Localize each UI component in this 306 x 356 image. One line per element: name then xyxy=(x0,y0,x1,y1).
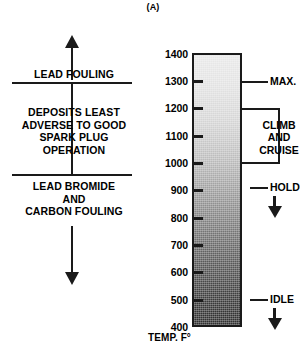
leader-line-max xyxy=(242,81,268,83)
callout-max: MAX. xyxy=(270,75,296,87)
temperature-scale-bar xyxy=(192,53,242,327)
scale-label-1300: 1300 xyxy=(146,75,188,87)
scale-label-1100: 1100 xyxy=(146,130,188,142)
scale-label-900: 900 xyxy=(146,184,188,196)
leader-line-idle xyxy=(250,299,268,301)
tick-1200 xyxy=(192,107,203,110)
figure-label: (A) xyxy=(0,2,306,12)
scale-label-1000: 1000 xyxy=(146,157,188,169)
callout-hold: HOLD xyxy=(270,181,300,193)
zone-label-deposits-least-adverse: DEPOSITS LEAST ADVERSE TO GOOD SPARK PLU… xyxy=(0,106,148,156)
left-deposit-zones-panel: LEAD FOULING DEPOSITS LEAST ADVERSE TO G… xyxy=(0,30,148,330)
tick-500 xyxy=(192,299,203,302)
bracket-arm-top-climb-cruise xyxy=(242,108,280,110)
tick-700 xyxy=(192,244,203,247)
scale-label-1200: 1200 xyxy=(146,102,188,114)
figure-a: (A) LEAD FOULING DEPOSITS LEAST ADVERSE … xyxy=(0,0,306,356)
callout-climb-and-cruise: CLIMB AND CRUISE xyxy=(255,119,303,156)
zone-spine-lower xyxy=(71,226,73,274)
tick-800 xyxy=(192,217,203,220)
lead-fouling-up-arrow-icon xyxy=(65,35,79,48)
zone-label-lead-fouling: LEAD FOULING xyxy=(0,68,148,81)
scale-label-800: 800 xyxy=(146,212,188,224)
temperature-axis-caption: TEMP. F° xyxy=(148,332,191,343)
callout-idle: IDLE xyxy=(270,293,294,305)
zone-divider-lower xyxy=(12,174,132,176)
hold-down-arrow-icon xyxy=(268,206,282,218)
zone-label-lead-bromide-carbon-fouling: LEAD BROMIDE AND CARBON FOULING xyxy=(0,180,148,218)
scale-label-500: 500 xyxy=(146,294,188,306)
leader-line-hold xyxy=(250,187,268,189)
tick-1300 xyxy=(192,80,203,83)
idle-down-arrow-icon xyxy=(268,318,282,330)
scale-label-600: 600 xyxy=(146,266,188,278)
scale-label-1400: 1400 xyxy=(146,48,188,60)
carbon-fouling-down-arrow-icon xyxy=(65,272,79,285)
scale-label-700: 700 xyxy=(146,239,188,251)
tick-1100 xyxy=(192,135,203,138)
bracket-arm-bottom-climb-cruise xyxy=(242,162,280,164)
tick-600 xyxy=(192,271,203,274)
tick-900 xyxy=(192,189,203,192)
tick-1000 xyxy=(192,162,203,165)
